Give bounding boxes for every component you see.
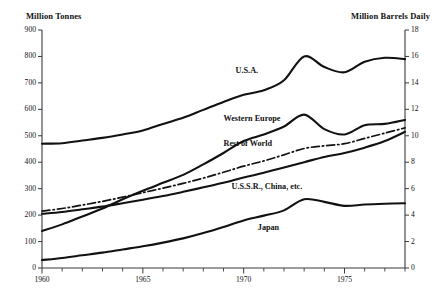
y-axis-right-tick-label: 0 [411,264,436,272]
line-chart-figure: Million Tonnes Million Barrels Daily 010… [0,0,436,295]
y-axis-right-tick-label: 12 [411,105,436,113]
y-axis-left-tick-label: 100 [10,238,36,246]
y-axis-right-tick-label: 18 [411,26,436,34]
y-axis-right-tick-label: 16 [411,52,436,60]
y-axis-right-tick-label: 10 [411,132,436,140]
y-axis-left-tick-label: 900 [10,26,36,34]
series-inline-label: Rest of World [224,140,273,148]
x-axis-tick-label: 1965 [123,276,163,284]
y-axis-left-tick-label: 200 [10,211,36,219]
series-inline-label: Japan [258,224,279,232]
y-axis-right-tick-label: 6 [411,185,436,193]
y-axis-right-tick-label: 2 [411,238,436,246]
series-inline-label: U.S.A. [236,67,259,75]
x-axis-tick-label: 1960 [22,276,62,284]
y-axis-left-tick-label: 700 [10,79,36,87]
x-axis-tick-label: 1970 [224,276,264,284]
y-axis-right-tick-label: 8 [411,158,436,166]
y-axis-left-tick-label: 600 [10,105,36,113]
y-axis-left-tick-label: 800 [10,52,36,60]
y-axis-left-tick-label: 500 [10,132,36,140]
y-axis-left-tick-label: 300 [10,185,36,193]
chart-plot-area [0,0,436,295]
y-axis-right-tick-label: 4 [411,211,436,219]
series-inline-label: Western Europe [224,115,281,123]
series-inline-label: U.S.S.R., China, etc. [232,183,303,191]
series-line [42,56,405,144]
y-axis-left-tick-label: 400 [10,158,36,166]
x-axis-tick-label: 1975 [325,276,365,284]
y-axis-right-tick-label: 14 [411,79,436,87]
y-axis-left-tick-label: 0 [10,264,36,272]
chart-series [42,56,405,260]
